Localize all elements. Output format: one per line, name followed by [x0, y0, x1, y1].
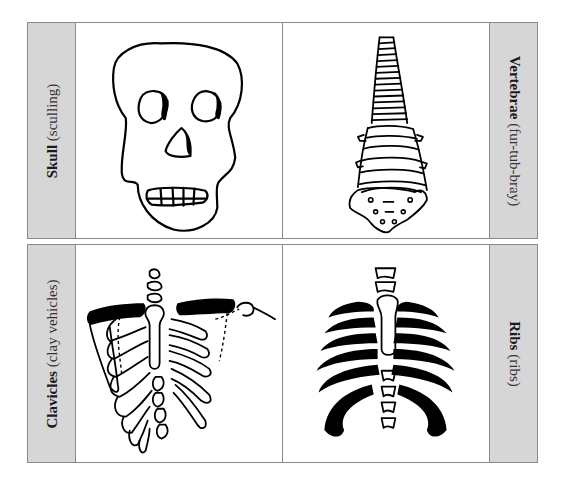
vertebrae-cell	[282, 23, 489, 238]
label-clavicles: Clavicles (clay vehicles)	[43, 279, 60, 428]
term-clavicles: Clavicles	[43, 371, 59, 429]
flashcard-row-top: Skull (sculling)	[27, 22, 538, 239]
label-strip-vertebrae: Vertebrae (fur-tub-bray)	[489, 23, 537, 238]
term-ribs: Ribs	[506, 321, 522, 350]
term-skull: Skull	[43, 144, 59, 177]
pronunciation-ribs: (ribs)	[506, 354, 522, 387]
clavicles-cell	[76, 245, 282, 462]
term-vertebrae: Vertebrae	[506, 55, 522, 119]
label-vertebrae: Vertebrae (fur-tub-bray)	[505, 55, 522, 205]
pronunciation-skull: (sculling)	[43, 83, 59, 141]
ribs-cell	[282, 245, 489, 462]
skull-illustration	[76, 23, 282, 238]
label-strip-clavicles: Clavicles (clay vehicles)	[28, 245, 76, 462]
label-strip-ribs: Ribs (ribs)	[489, 245, 537, 462]
ribs-illustration	[283, 245, 489, 462]
flashcard-row-bottom: Clavicles (clay vehicles)	[27, 244, 538, 463]
pronunciation-clavicles: (clay vehicles)	[43, 279, 59, 367]
label-ribs: Ribs (ribs)	[505, 321, 522, 386]
vertebrae-illustration	[283, 23, 489, 238]
clavicles-illustration	[76, 245, 282, 462]
label-strip-skull: Skull (sculling)	[28, 23, 76, 238]
pronunciation-vertebrae: (fur-tub-bray)	[506, 123, 522, 206]
label-skull: Skull (sculling)	[43, 83, 60, 178]
skull-cell	[76, 23, 282, 238]
